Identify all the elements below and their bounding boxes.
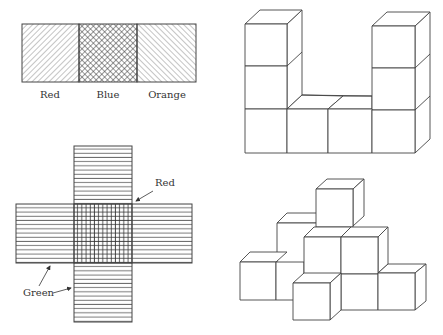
- net-center: [74, 204, 132, 263]
- net-left-arm: [16, 204, 74, 263]
- u-shape-cubes: [245, 10, 430, 153]
- orange-square: [137, 24, 196, 82]
- label-net-red: Red: [155, 177, 175, 188]
- cross-net: Red Green: [16, 146, 192, 322]
- label-net-green: Green: [23, 287, 55, 298]
- label-red: Red: [40, 89, 60, 100]
- red-square: [22, 24, 79, 82]
- arrow-green-2: [53, 288, 71, 293]
- blue-square: [79, 24, 137, 82]
- net-top-arm: [74, 146, 132, 204]
- figure-canvas: Red Blue Orange Red Green: [0, 0, 443, 335]
- net-bottom-arm: [74, 263, 132, 322]
- label-orange: Orange: [148, 89, 186, 100]
- net-right-arm: [132, 204, 192, 263]
- label-blue: Blue: [97, 89, 120, 100]
- color-strip: Red Blue Orange: [22, 24, 196, 100]
- pyramid-cubes: [240, 179, 426, 320]
- arrow-green-1: [39, 266, 50, 286]
- arrow-red: [136, 191, 153, 201]
